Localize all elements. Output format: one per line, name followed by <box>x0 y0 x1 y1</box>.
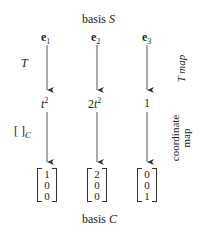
coord-vector-2: 2 0 0 <box>87 168 107 202</box>
coordinate-map-side-label: coordinate map <box>170 111 192 165</box>
vector-e3-index: 3 <box>147 37 151 46</box>
t-map-label: T <box>21 56 28 71</box>
vector-e2-index: 2 <box>96 37 100 46</box>
image-e2-exp: 2 <box>97 96 101 105</box>
matrix-cell: 1 <box>137 191 157 202</box>
vector-e3: e3 <box>142 30 151 46</box>
vector-e2: e2 <box>91 30 100 46</box>
coordinate-subscript: C <box>25 130 31 140</box>
image-e1: t2 <box>41 96 48 112</box>
coord-vector-1: 1 0 0 <box>37 168 57 202</box>
coordinate-map-label: [ ]C <box>14 124 31 140</box>
coordinate-brackets: [ ] <box>14 124 25 138</box>
basis-s-title: basis S <box>82 12 115 27</box>
coordinate-side-line2: map <box>181 111 192 165</box>
basis-s-var: S <box>109 12 115 26</box>
coordinate-map-arrows <box>47 112 147 162</box>
matrix-cell: 0 <box>87 191 107 202</box>
matrix-cell: 0 <box>37 191 57 202</box>
basis-s-prefix: basis <box>82 12 109 26</box>
image-e3: 1 <box>144 96 150 111</box>
t-map-side-label: T map <box>176 51 187 87</box>
t-map-arrows <box>47 45 147 90</box>
basis-c-prefix: basis <box>82 212 109 226</box>
image-e1-exp: 2 <box>44 96 48 105</box>
vector-e1-index: 1 <box>46 37 50 46</box>
image-e2: 2t2 <box>88 96 101 112</box>
basis-c-title: basis C <box>82 212 117 227</box>
basis-c-var: C <box>109 212 117 226</box>
t-map-side-text: T map <box>175 55 187 83</box>
coord-vector-3: 0 0 1 <box>137 168 157 202</box>
vector-e1: e1 <box>41 30 50 46</box>
